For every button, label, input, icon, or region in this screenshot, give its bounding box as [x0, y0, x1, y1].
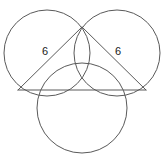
right-leg-length-label: 6: [115, 45, 121, 57]
triangle-left-leg: [18, 27, 82, 90]
figure-canvas: 6 6: [0, 0, 166, 160]
geometry-figure: 6 6: [0, 0, 166, 160]
bottom-circle: [37, 63, 127, 153]
triangle-right-leg: [82, 27, 146, 90]
left-leg-length-label: 6: [42, 45, 48, 57]
